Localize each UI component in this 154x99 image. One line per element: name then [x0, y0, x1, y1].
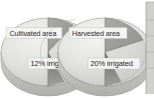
harvested-irrigated-label-group: 20% irrigated: [88, 58, 140, 69]
cultivated-area-label-group: Cultivated area: [6, 28, 62, 39]
pie-chart-canvas: Cultivated area 12% irrigated: [0, 0, 154, 99]
pie-chart-figure: Cultivated area 12% irrigated: [0, 0, 154, 99]
harvested-area-label-group: Harvested area: [69, 28, 127, 39]
cultivated-area-label: Cultivated area: [10, 29, 57, 38]
harvested-area-label: Harvested area: [72, 29, 120, 38]
adjacent-figure-strip: [146, 2, 154, 94]
harvested-irrigated-label: 20% irrigated: [91, 59, 133, 68]
cropped-adjacent-figure: [146, 2, 154, 94]
